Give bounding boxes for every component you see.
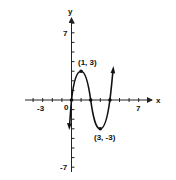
y-tick-label-7: 7 [63, 29, 68, 38]
x-tick-label-7: 7 [136, 104, 141, 113]
min-point-label: (3, -3) [94, 133, 116, 142]
function-graph: y x 0 -3 7 7 -7 (1, 3) (3, -3) [0, 0, 176, 180]
y-axis-label: y [68, 7, 73, 16]
point-max [79, 69, 83, 73]
point-origin [70, 98, 74, 102]
x-axis [25, 98, 152, 102]
origin-label: 0 [64, 103, 69, 112]
x-axis-label: x [156, 96, 161, 105]
curve-arrow-down-icon [67, 123, 72, 130]
curve-arrow-up-icon [111, 66, 116, 74]
y-tick-label-neg7: -7 [60, 163, 68, 172]
point-root-2 [89, 98, 93, 102]
max-point-label: (1, 3) [78, 58, 97, 67]
x-tick-label-neg3: -3 [37, 104, 45, 113]
point-min [99, 127, 103, 131]
point-root-4 [108, 98, 112, 102]
